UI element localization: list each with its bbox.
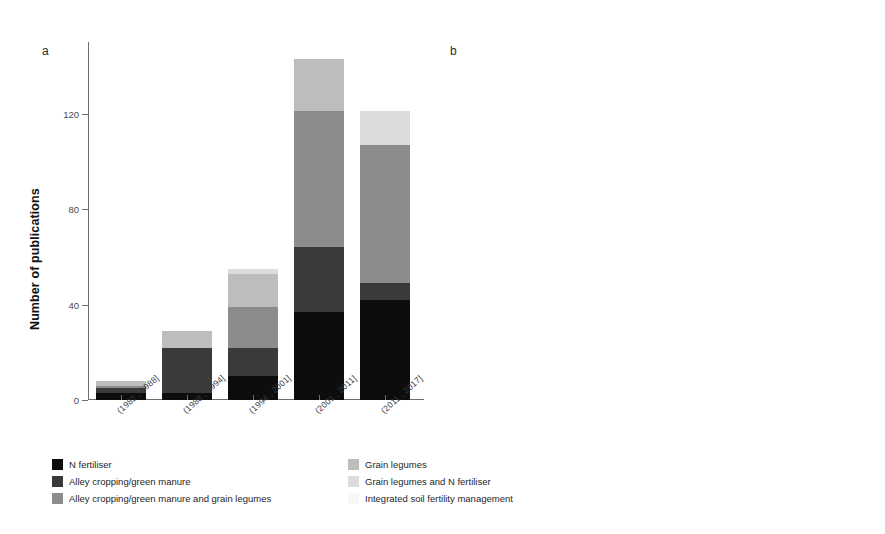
legend-swatch-icon — [348, 476, 359, 487]
bar-segment — [360, 145, 410, 283]
legend-swatch-icon — [52, 493, 63, 504]
bar-segment — [294, 59, 344, 112]
bar-a-0 — [96, 42, 146, 400]
bar-segment — [228, 274, 278, 307]
legend-item-label: Grain legumes — [365, 459, 427, 470]
x-tick-a-2 — [253, 395, 254, 400]
bar-segment — [228, 348, 278, 377]
bar-segment — [360, 111, 410, 144]
panel-a-plot-area: 04080120(1982 , 1988](1988 , 1994](1994 … — [88, 42, 418, 400]
legend-swatch-icon — [52, 459, 63, 470]
bar-segment — [162, 331, 212, 348]
x-tick-a-1 — [187, 395, 188, 400]
bar-segment — [294, 247, 344, 311]
bar-a-3 — [294, 42, 344, 400]
legend-item[interactable]: Grain legumes — [348, 458, 513, 471]
legend-item-label: N fertiliser — [69, 459, 112, 470]
legend-swatch-icon — [348, 459, 359, 470]
panel-a-y-axis-title: Number of publications — [28, 188, 42, 330]
bar-a-1 — [162, 42, 212, 400]
y-tick-label-a-0: 0 — [74, 395, 79, 406]
y-tick-label-a-1: 40 — [68, 299, 79, 310]
legend-column-left: N fertiliserAlley cropping/green manureA… — [52, 458, 348, 505]
panel-a-letter: a — [42, 44, 49, 58]
legend-item[interactable]: Alley cropping/green manure and grain le… — [52, 492, 348, 505]
panel-b: b Proportion of publications (%) 0255075… — [440, 0, 885, 455]
legend-item-label: Alley cropping/green manure and grain le… — [69, 493, 271, 504]
legend-item[interactable]: Integrated soil fertility management — [348, 492, 513, 505]
x-tick-a-4 — [385, 395, 386, 400]
x-tick-a-0 — [121, 395, 122, 400]
y-tick-a-1 — [82, 305, 88, 306]
legend-item-label: Alley cropping/green manure — [69, 476, 190, 487]
legend-item-label: Grain legumes and N fertiliser — [365, 476, 491, 487]
bar-a-2 — [228, 42, 278, 400]
panel-b-letter: b — [450, 44, 457, 58]
x-tick-a-3 — [319, 395, 320, 400]
panel-a-bars — [88, 42, 418, 400]
y-tick-label-a-2: 80 — [68, 204, 79, 215]
legend-item-label: Integrated soil fertility management — [365, 493, 513, 504]
legend: N fertiliserAlley cropping/green manureA… — [52, 458, 812, 505]
legend-item[interactable]: Grain legumes and N fertiliser — [348, 475, 513, 488]
legend-swatch-icon — [52, 476, 63, 487]
bar-segment — [294, 111, 344, 247]
legend-swatch-icon — [348, 493, 359, 504]
y-tick-a-3 — [82, 114, 88, 115]
legend-column-right: Grain legumesGrain legumes and N fertili… — [348, 458, 513, 505]
panel-a: a Number of publications 04080120(1982 ,… — [0, 0, 445, 455]
legend-item[interactable]: N fertiliser — [52, 458, 348, 471]
bar-segment — [360, 283, 410, 300]
figure-publications-by-fertility-option: a Number of publications 04080120(1982 ,… — [0, 0, 885, 534]
bar-segment — [228, 307, 278, 348]
y-tick-a-2 — [82, 209, 88, 210]
y-tick-label-a-3: 120 — [63, 108, 79, 119]
legend-item[interactable]: Alley cropping/green manure — [52, 475, 348, 488]
bar-a-4 — [360, 42, 410, 400]
y-tick-a-0 — [82, 400, 88, 401]
